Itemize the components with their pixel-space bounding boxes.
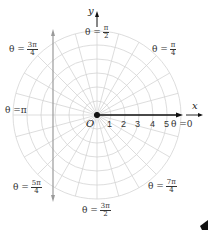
fraction-denominator: 4 <box>34 188 38 195</box>
angle-label-pi: θ = π <box>5 106 27 115</box>
x-axis-label: x <box>192 100 198 111</box>
angle-prefix: θ = <box>82 206 98 215</box>
angle-prefix: θ = <box>148 182 164 191</box>
corner-mark <box>200 220 208 230</box>
angle-fraction: π4 <box>170 42 177 57</box>
angle-fraction: 3π2 <box>100 203 111 218</box>
fraction-denominator: 2 <box>104 33 108 40</box>
angle-fraction: 7π4 <box>166 179 177 194</box>
angle-label-pi-over-4: θ = π4 <box>152 42 176 57</box>
radial-tick-4: 4 <box>150 119 155 129</box>
angle-fraction: 5π4 <box>31 180 42 195</box>
radial-tick-5: 5 <box>164 119 169 129</box>
origin-label: O <box>86 118 94 129</box>
fraction-denominator: 4 <box>171 50 175 57</box>
angle-prefix: θ = <box>85 28 101 37</box>
fraction-denominator: 4 <box>169 187 173 194</box>
angle-label-pi-over-2: θ = π2 <box>85 25 109 40</box>
angle-label-0: θ = 0 <box>171 120 193 129</box>
radial-tick-1: 1 <box>107 119 112 129</box>
angle-prefix: θ = <box>152 45 168 54</box>
angle-prefix: θ = <box>171 120 187 129</box>
fraction-denominator: 4 <box>30 50 34 57</box>
angle-prefix: θ = <box>9 45 25 54</box>
radial-tick-2: 2 <box>121 119 126 129</box>
angle-label-3pi-over-2: θ = 3π2 <box>82 203 111 218</box>
angle-label-3pi-over-4: θ = 3π4 <box>9 42 38 57</box>
y-axis-label: y <box>88 5 94 16</box>
radial-tick-3: 3 <box>135 119 140 129</box>
angle-label-7pi-over-4: θ = 7π4 <box>148 179 177 194</box>
angle-fraction: π2 <box>103 25 110 40</box>
fraction-denominator: 2 <box>103 211 107 218</box>
angle-value: π <box>21 106 27 115</box>
angle-prefix: θ = <box>5 106 21 115</box>
angle-label-5pi-over-4: θ = 5π4 <box>13 180 42 195</box>
vertical-gray-line <box>51 29 55 202</box>
angle-value: 0 <box>187 120 193 129</box>
angle-prefix: θ = <box>13 183 29 192</box>
angle-fraction: 3π4 <box>27 42 38 57</box>
